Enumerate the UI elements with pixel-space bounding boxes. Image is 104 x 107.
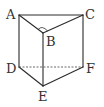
edge-de bbox=[19, 67, 43, 86]
vertex-label-b: B bbox=[46, 34, 56, 49]
vertex-label-a: A bbox=[5, 7, 16, 22]
vertex-label-e: E bbox=[38, 89, 48, 104]
vertex-label-f: F bbox=[86, 61, 95, 76]
edge-ab bbox=[19, 15, 43, 33]
edge-ef bbox=[43, 67, 83, 86]
vertex-label-d: D bbox=[6, 61, 16, 76]
triangular-prism-diagram: A B C D E F bbox=[0, 0, 104, 107]
edge-bc bbox=[43, 15, 83, 33]
vertex-label-c: C bbox=[85, 7, 95, 22]
